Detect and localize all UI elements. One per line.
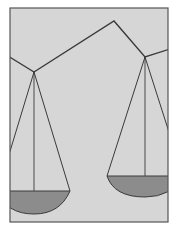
balance-scale-illustration [0, 0, 179, 233]
